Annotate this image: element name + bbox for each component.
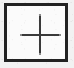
plus-icon [7,6,65,59]
add-button[interactable]: Add [4,3,68,62]
screenshot-canvas: Add [0,0,74,68]
plus-icon-vertical-bar [39,16,41,53]
